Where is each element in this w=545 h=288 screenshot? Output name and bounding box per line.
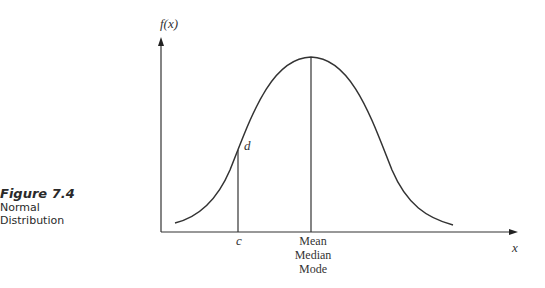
y-axis-label: f(x) (160, 16, 178, 31)
point-label-c: c (236, 233, 242, 248)
y-axis-arrow-icon (158, 37, 164, 46)
normal-curve (175, 57, 453, 225)
point-label-d: d (244, 138, 251, 153)
x-axis-arrow-icon (509, 229, 518, 235)
x-axis-label: x (511, 240, 518, 255)
normal-distribution-diagram: f(x) x d c Mean Median Mode (0, 0, 545, 288)
mode-label: Mode (299, 262, 327, 276)
mean-label: Mean (299, 234, 326, 248)
median-label: Median (295, 248, 332, 262)
